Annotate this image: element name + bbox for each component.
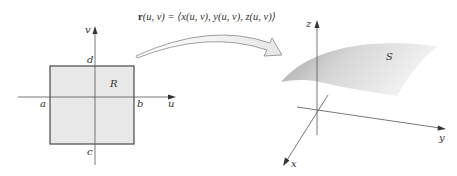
region-r-rect (50, 66, 134, 144)
uv-plane: v u R a b c d (18, 24, 176, 165)
region-label: R (109, 78, 118, 89)
z-axis-arrowhead-icon (315, 20, 320, 28)
v-axis-label: v (85, 24, 91, 35)
mapping-formula: r(u, v) = ⟨x(u, v), y(u, v), z(u, v)⟩ (138, 11, 276, 23)
surface-label: S (386, 51, 393, 62)
parametric-surface-diagram: v u R a b c d r(u, v) = ⟨x(u, v), y(u, v… (0, 0, 457, 176)
x-axis (287, 95, 328, 160)
z-axis-label: z (305, 18, 312, 29)
bound-c-label: c (87, 146, 93, 157)
u-axis-label: u (168, 98, 174, 109)
bound-b-label: b (137, 98, 143, 109)
mapping-arrow-icon (136, 35, 282, 58)
bound-a-label: a (40, 98, 46, 109)
y-axis-label: y (438, 132, 445, 143)
xyz-space: z y x S (281, 18, 446, 169)
y-axis-arrowhead-icon (438, 126, 447, 131)
x-axis-arrowhead-icon (283, 158, 290, 167)
bound-d-label: d (87, 54, 93, 65)
v-axis-arrowhead-icon (93, 26, 98, 34)
formula-rest: (u, v) = ⟨x(u, v), y(u, v), z(u, v)⟩ (143, 11, 276, 23)
surface-s (281, 43, 438, 96)
x-axis-label: x (291, 158, 297, 169)
